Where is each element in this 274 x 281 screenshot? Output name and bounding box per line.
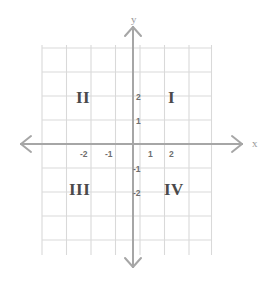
quadrant-label-ii: II bbox=[76, 89, 90, 106]
y-tick-label-neg2: -2 bbox=[133, 189, 141, 198]
quadrant-label-iii: III bbox=[69, 181, 90, 198]
coordinate-plane-figure: y x -2 -1 1 2 2 1 -1 -2 I II III IV bbox=[0, 0, 274, 281]
y-tick-label-2: 2 bbox=[136, 93, 141, 102]
quadrant-label-iv: IV bbox=[164, 181, 184, 198]
x-tick-label-neg1: -1 bbox=[105, 150, 113, 159]
coordinate-plane-svg bbox=[0, 0, 274, 281]
y-axis-label: y bbox=[131, 14, 137, 25]
grid-lines bbox=[42, 45, 212, 255]
x-tick-label-1: 1 bbox=[148, 150, 153, 159]
y-tick-label-1: 1 bbox=[136, 117, 141, 126]
quadrant-label-i: I bbox=[168, 89, 175, 106]
x-axis-label: x bbox=[252, 138, 258, 149]
y-tick-label-neg1: -1 bbox=[133, 165, 141, 174]
x-tick-label-2: 2 bbox=[169, 150, 174, 159]
x-tick-label-neg2: -2 bbox=[80, 150, 88, 159]
